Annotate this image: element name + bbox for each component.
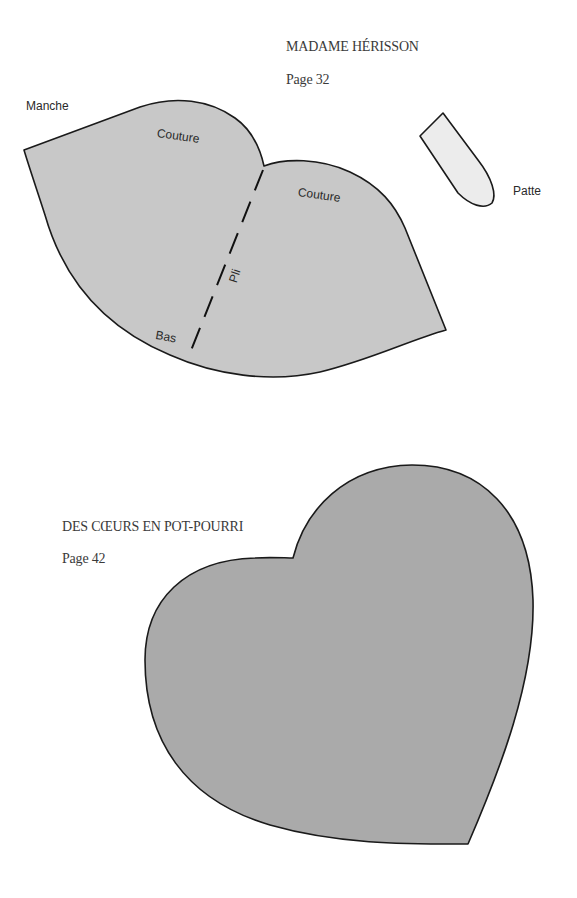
label-manche: Manche	[26, 99, 69, 113]
herisson-page-ref: Page 32	[286, 72, 329, 88]
pattern-shapes	[0, 0, 577, 898]
coeurs-page-ref: Page 42	[62, 551, 105, 567]
patte-shape	[420, 113, 494, 206]
coeurs-title: DES CŒURS EN POT-POURRI	[62, 519, 243, 535]
label-patte: Patte	[513, 184, 541, 198]
pattern-page: MADAME HÉRISSON Page 32 Manche Couture C…	[0, 0, 577, 898]
herisson-title: MADAME HÉRISSON	[286, 39, 419, 55]
